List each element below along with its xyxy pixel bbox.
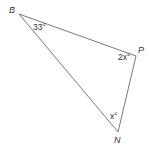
triangle-diagram: B P N 33° 2x° x°: [0, 0, 149, 146]
angle-label-n: x°: [110, 111, 118, 121]
side-pn: [118, 56, 136, 132]
vertex-label-n: N: [114, 135, 121, 145]
angle-label-b: 33°: [33, 22, 46, 32]
vertex-label-b: B: [9, 5, 15, 15]
angle-label-p: 2x°: [118, 52, 130, 62]
vertex-label-p: P: [138, 45, 144, 55]
